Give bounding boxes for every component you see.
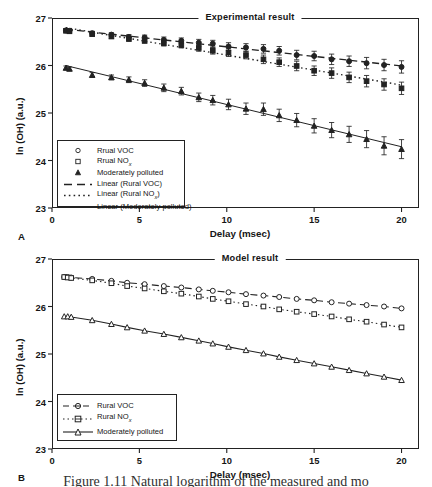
y-axis-label-a: ln (OH) (a.u.) — [14, 97, 25, 155]
y-tick-label: 26 — [26, 301, 46, 312]
legend-item: Rrual NOx — [63, 156, 178, 167]
solid-line-icon — [63, 201, 93, 212]
dotted-line-icon — [63, 190, 93, 201]
y-tick-label: 23 — [26, 444, 46, 455]
solid-triangle-icon — [63, 426, 93, 437]
y-tick-label: 24 — [26, 396, 46, 407]
y-tick-label: 24 — [26, 155, 46, 166]
y-tick-label: 27 — [26, 13, 46, 24]
legend-label: Moderately polluted — [97, 169, 163, 177]
x-axis-label-a: Delay (msec) — [210, 228, 270, 239]
legend-label: Linear (Moderately polluted) — [97, 203, 192, 211]
dashed-line-icon — [63, 179, 93, 190]
legend-item: Rural NOx — [63, 412, 170, 425]
legend-label: Rrual NOx — [97, 157, 131, 167]
x-tick-label: 15 — [309, 455, 319, 466]
legend-item: Linear (Rural NOx) — [63, 190, 178, 201]
legend-label: Moderately polluted — [97, 428, 163, 436]
y-tick-label: 27 — [26, 254, 46, 265]
legend-item: Moderately polluted — [63, 167, 178, 178]
x-tick-label: 0 — [49, 455, 54, 466]
x-tick-label: 10 — [222, 214, 232, 225]
x-tick-label: 5 — [137, 214, 142, 225]
dotted-square-icon — [63, 413, 93, 424]
figure-caption: Figure 1.11 Natural logarithm of the mea… — [0, 474, 432, 487]
y-tick-label: 26 — [26, 60, 46, 71]
figure-container: Experimental result ln (OH) (a.u.) Delay… — [0, 0, 432, 487]
plot-canvas-b — [0, 241, 432, 487]
panel-a: Experimental result ln (OH) (a.u.) Delay… — [0, 0, 432, 245]
x-tick-label: 15 — [309, 214, 319, 225]
y-tick-label: 25 — [26, 108, 46, 119]
square-marker-icon — [63, 156, 93, 167]
x-tick-label: 0 — [49, 214, 54, 225]
x-tick-label: 20 — [396, 455, 406, 466]
x-tick-label: 20 — [396, 214, 406, 225]
plot-title-a: Experimental result — [198, 13, 301, 22]
legend-item: Moderately polluted — [63, 425, 170, 438]
legend-label: Rrual VOC — [97, 147, 134, 155]
panel-b: Model result ln (OH) (a.u.) Delay (msec)… — [0, 241, 432, 487]
legend-item: Rrual VOC — [63, 145, 178, 156]
y-tick-label: 23 — [26, 203, 46, 214]
x-tick-label: 5 — [137, 455, 142, 466]
x-tick-label: 10 — [222, 455, 232, 466]
y-axis-label-b: ln (OH) (a.u.) — [14, 338, 25, 396]
legend-label: Linear (Rural VOC) — [97, 180, 162, 188]
legend-item: Linear (Moderately polluted) — [63, 201, 178, 212]
dashed-circle-icon — [63, 400, 93, 411]
legend-label: Rural NOx — [97, 413, 131, 423]
legend-a: Rrual VOC Rrual NOx Moderately polluted … — [57, 140, 185, 207]
circle-marker-icon — [63, 145, 93, 156]
y-tick-label: 25 — [26, 349, 46, 360]
legend-item: Linear (Rural VOC) — [63, 179, 178, 190]
legend-label: Rural VOC — [97, 402, 134, 410]
legend-item: Rural VOC — [63, 399, 170, 412]
plot-title-b: Model result — [215, 254, 286, 263]
triangle-marker-icon — [63, 167, 93, 178]
legend-label: Linear (Rural NOx) — [97, 190, 160, 200]
legend-b: Rural VOC Rural NOx — [57, 394, 177, 441]
